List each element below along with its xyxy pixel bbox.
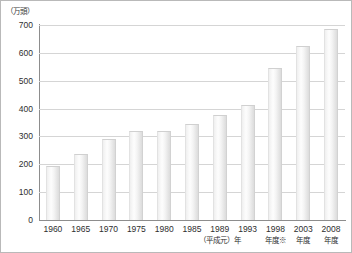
y-axis-tick-label: 700 xyxy=(5,21,33,30)
bar xyxy=(241,105,255,220)
y-axis-tick-label: 600 xyxy=(5,49,33,58)
chart-figure: （万頭） 0100200300400500600700 196019651970… xyxy=(0,0,352,253)
bar xyxy=(129,131,143,220)
bar xyxy=(74,154,88,220)
y-axis-tick-label: 400 xyxy=(5,105,33,114)
y-axis-tick-label: 100 xyxy=(5,188,33,197)
bar xyxy=(213,115,227,220)
bar xyxy=(102,139,116,220)
bar xyxy=(324,29,338,220)
x-axis-tick-label: 2008 xyxy=(311,224,351,235)
bar xyxy=(185,124,199,220)
bar xyxy=(46,166,60,220)
bar xyxy=(157,131,171,220)
y-axis-tick-label: 0 xyxy=(5,216,33,225)
bar xyxy=(296,46,310,220)
y-axis-unit-label: （万頭） xyxy=(6,5,34,16)
x-axis-sublabel: 年度 xyxy=(308,236,352,245)
y-axis-tick-label: 500 xyxy=(5,77,33,86)
gridline xyxy=(39,25,345,26)
x-axis-sublabel: （平成元）年 xyxy=(197,236,243,245)
x-axis-line xyxy=(39,220,346,221)
y-axis-tick-label: 200 xyxy=(5,160,33,169)
bar xyxy=(268,68,282,220)
y-axis-tick-label: 300 xyxy=(5,132,33,141)
